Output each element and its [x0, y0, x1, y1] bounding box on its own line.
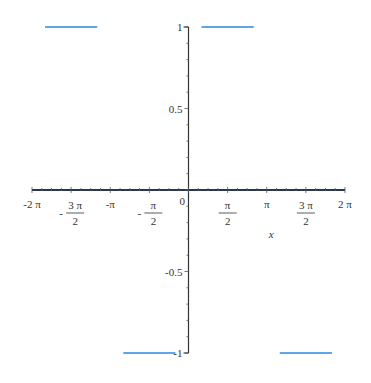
origin-label: 0 [180, 195, 186, 207]
svg-text:2: 2 [72, 215, 78, 227]
y-tick-label: 1 [177, 21, 183, 33]
plot-canvas: -2 π3 π2--ππ2-π2π3 π22 π 10.5-0.5-1 0 x [0, 0, 371, 383]
svg-text:-: - [138, 207, 142, 219]
y-tick-label: 0.5 [169, 103, 183, 115]
x-axis-label: x [268, 228, 274, 240]
y-tick-label: -0.5 [165, 266, 183, 278]
svg-text:π: π [151, 199, 157, 211]
svg-text:3 π: 3 π [68, 199, 82, 211]
x-tick-fraction: π2 [219, 199, 237, 227]
x-tick-label: 2 π [338, 198, 352, 210]
x-tick-label: -2 π [23, 198, 41, 210]
axes [32, 27, 345, 353]
svg-text:π: π [225, 199, 231, 211]
x-tick-fraction: 3 π2- [59, 199, 84, 227]
svg-text:2: 2 [303, 215, 309, 227]
svg-text:2: 2 [151, 215, 157, 227]
x-tick-label: -π [106, 198, 116, 210]
x-tick-fraction: 3 π2 [297, 199, 315, 227]
x-tick-label: π [264, 198, 270, 210]
svg-text:3 π: 3 π [299, 199, 313, 211]
svg-text:-: - [59, 207, 63, 219]
svg-text:2: 2 [225, 215, 231, 227]
x-tick-fraction: π2- [138, 199, 163, 227]
